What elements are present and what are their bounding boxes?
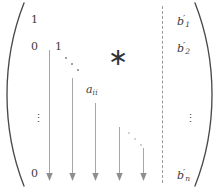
constant-bn-subscript: n: [185, 174, 190, 183]
constant-b1-subscript: 1: [185, 20, 190, 29]
constant-bn: b′n: [177, 168, 190, 183]
arrow-column-5: [139, 148, 148, 182]
ddots-upper-icon: [64, 56, 82, 72]
augmented-matrix-figure: 1 0 1 0 aii ∗ ⋮ ⋮ b′1 b′2 b′n: [0, 0, 219, 189]
arrow-column-4: [115, 127, 124, 182]
left-parenthesis: [4, 0, 30, 189]
entry-a-ii: aii: [86, 84, 98, 97]
vdots-left-icon: ⋮: [33, 113, 44, 124]
constant-b2: b′2: [177, 41, 190, 56]
entry-2-1: 0: [31, 41, 38, 52]
arrow-column-3: [91, 103, 100, 182]
right-parenthesis: [189, 0, 215, 189]
ddots-lower-icon: [127, 131, 145, 147]
upper-triangle-asterisk: ∗: [108, 45, 128, 69]
arrow-column-2: [68, 78, 77, 182]
entry-n-1: 0: [31, 168, 38, 179]
constant-b1: b′1: [177, 14, 190, 29]
entry-1-1: 1: [31, 14, 38, 25]
vdots-right-icon: ⋮: [185, 113, 196, 124]
arrow-column-1: [45, 50, 54, 182]
entry-a-ii-subscript: ii: [93, 88, 98, 97]
constant-b2-subscript: 2: [185, 47, 190, 56]
augmented-matrix-divider: [162, 6, 163, 183]
entry-2-2: 1: [55, 41, 62, 52]
